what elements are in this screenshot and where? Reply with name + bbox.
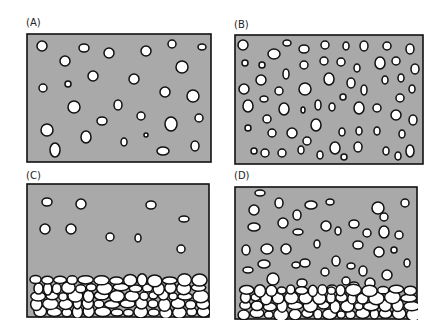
bubble: [124, 274, 137, 286]
bubble: [42, 276, 54, 284]
bubble: [76, 199, 86, 209]
bubble: [354, 142, 362, 152]
panel-b: [234, 34, 424, 165]
bubble: [50, 143, 60, 157]
panel-d: [234, 186, 418, 320]
bubble: [135, 234, 141, 242]
bubble: [81, 131, 91, 143]
bubble: [177, 245, 185, 253]
bubble: [146, 201, 156, 209]
bubble: [140, 292, 149, 300]
bubble: [354, 64, 360, 72]
bubble: [121, 138, 127, 146]
bubble: [281, 244, 291, 254]
bubble: [329, 103, 335, 111]
bubble: [396, 94, 404, 102]
bubble: [66, 224, 76, 234]
bubble: [374, 247, 384, 257]
bubble: [300, 259, 310, 267]
bubble: [293, 210, 301, 220]
bubble: [266, 285, 277, 296]
bubble: [264, 311, 273, 318]
bubble: [261, 149, 269, 157]
bubble: [111, 309, 123, 316]
bubble: [106, 233, 114, 241]
bubble: [260, 96, 268, 102]
bubble: [398, 74, 404, 82]
bubble: [40, 224, 50, 234]
bubble: [332, 256, 340, 266]
bubble: [187, 90, 199, 102]
bubble: [259, 62, 265, 68]
bubble: [248, 223, 260, 231]
bubble: [375, 57, 385, 69]
bubble: [238, 40, 248, 50]
bubble: [67, 276, 77, 284]
bubble: [37, 41, 47, 51]
bubble: [148, 300, 158, 308]
bubble: [193, 290, 209, 303]
bubble: [65, 81, 71, 87]
bubble: [278, 149, 286, 157]
bubble: [327, 287, 335, 294]
bubble: [347, 78, 355, 88]
bubble: [300, 61, 308, 69]
bubble: [349, 220, 359, 228]
bubble: [354, 102, 364, 114]
bubble: [162, 277, 177, 284]
bubble: [30, 275, 41, 283]
bubble: [342, 277, 350, 285]
bubble: [337, 58, 345, 66]
bubble: [94, 300, 104, 308]
panel-label: (B): [234, 19, 249, 30]
bubble: [409, 85, 415, 93]
bubble: [68, 101, 80, 113]
bubble: [321, 41, 329, 49]
bubble: [268, 49, 280, 59]
bubble: [52, 284, 61, 294]
bubble: [249, 205, 259, 215]
bubble: [141, 46, 151, 56]
bubble: [277, 287, 286, 294]
bubble: [361, 85, 367, 95]
bubble: [299, 83, 311, 95]
bubble: [311, 119, 321, 131]
bubble: [110, 277, 123, 284]
bubble: [34, 283, 43, 294]
bubble: [353, 241, 363, 249]
bubble: [374, 127, 380, 135]
bubble: [320, 57, 328, 65]
bubble: [198, 44, 206, 50]
bubble: [255, 190, 265, 196]
panel-label: (A): [26, 17, 41, 28]
bubble: [192, 274, 207, 286]
bubble: [372, 202, 384, 214]
bubble: [343, 42, 349, 50]
bubble: [389, 285, 403, 293]
bubble: [305, 201, 317, 209]
bubble: [240, 285, 254, 294]
bubble: [383, 147, 389, 155]
bubble: [299, 45, 309, 53]
bubble: [360, 41, 368, 51]
bubble: [243, 267, 253, 273]
bubble: [330, 142, 340, 154]
bubble: [287, 128, 297, 138]
bubble: [160, 87, 170, 97]
bubble: [382, 76, 388, 84]
bubble: [404, 302, 418, 311]
bubble: [324, 73, 334, 85]
bubble: [404, 259, 410, 267]
bubble: [287, 285, 295, 294]
bubble: [185, 301, 195, 310]
bubble: [129, 74, 139, 84]
bubble: [275, 87, 283, 95]
bubble: [79, 44, 89, 52]
bubble: [157, 147, 169, 155]
bubble: [78, 276, 93, 284]
bubble: [404, 286, 416, 295]
bubble: [401, 199, 409, 207]
bubble: [86, 284, 96, 291]
bubble: [60, 56, 70, 66]
bubble: [336, 285, 345, 296]
